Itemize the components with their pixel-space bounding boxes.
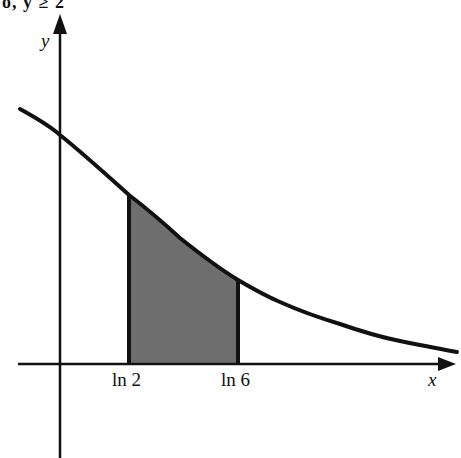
tick-label-ln2: ln 2	[112, 370, 141, 389]
y-axis-arrow-icon	[53, 14, 67, 34]
y-axis-label: y	[41, 31, 49, 50]
x-axis-label: x	[428, 370, 436, 389]
tick-label-ln6: ln 6	[221, 370, 250, 389]
x-axis-arrow-icon	[438, 357, 456, 371]
shaded-area	[129, 195, 238, 364]
